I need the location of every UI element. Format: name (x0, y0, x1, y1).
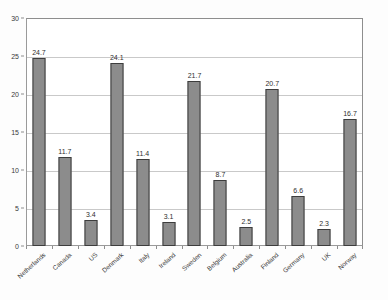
y-tick-label: 0 (15, 243, 19, 250)
x-axis-category-text: Australia (231, 251, 254, 273)
bar-value-label: 11.7 (58, 148, 71, 155)
bar-group: 2.3 (311, 18, 337, 246)
x-axis-category-text: US (87, 251, 98, 262)
bar-group: 21.7 (182, 18, 208, 246)
x-axis-category-text: Sweden (180, 251, 202, 272)
bar (110, 63, 123, 246)
x-axis-category-text: Netherlands (16, 251, 47, 280)
bar-value-label: 24.1 (110, 54, 124, 61)
x-axis-category-text: Germany (281, 251, 306, 274)
x-axis-category-text: Ireland (157, 251, 176, 270)
x-axis-category-text: Italy (137, 251, 151, 264)
bar-group: 2.5 (233, 18, 259, 246)
x-axis-category-text: Denmark (100, 251, 124, 274)
y-tick-label: 20 (11, 91, 19, 98)
bar (188, 81, 201, 246)
bar-value-label: 20.7 (265, 80, 279, 87)
x-axis-category-text: Canada (51, 251, 73, 271)
bar-chart: 051015202530 24.711.73.424.111.43.121.78… (0, 0, 388, 300)
y-tick-mark (21, 170, 24, 171)
bar-value-label: 8.7 (216, 171, 226, 178)
x-axis-category-text: Belgium (206, 251, 228, 272)
bar-group: 16.7 (337, 18, 363, 246)
y-tick-mark (21, 246, 24, 247)
bars-layer: 24.711.73.424.111.43.121.78.72.520.76.62… (26, 18, 363, 246)
y-tick-mark (21, 208, 24, 209)
bar (292, 196, 305, 246)
y-tick-mark (21, 18, 24, 19)
x-axis-category-text: UK (320, 251, 331, 262)
bar-group: 11.4 (130, 18, 156, 246)
bar-value-label: 6.6 (293, 187, 303, 194)
bar-value-label: 3.4 (86, 211, 96, 218)
y-tick-mark (21, 94, 24, 95)
bar-group: 24.1 (104, 18, 130, 246)
bar-value-label: 24.7 (32, 49, 46, 56)
y-tick-label: 10 (11, 167, 19, 174)
bar-group: 8.7 (207, 18, 233, 246)
bar-group: 3.1 (156, 18, 182, 246)
y-tick-mark (21, 56, 24, 57)
y-tick-label: 15 (11, 129, 19, 136)
bar-group: 20.7 (259, 18, 285, 246)
x-axis-category-text: Norway (337, 251, 358, 271)
bar (32, 58, 45, 246)
bar-group: 3.4 (78, 18, 104, 246)
bar (266, 89, 279, 246)
y-tick-label: 25 (11, 53, 19, 60)
y-tick-mark (21, 132, 24, 133)
bar-value-label: 16.7 (343, 110, 357, 117)
y-tick-label: 30 (11, 15, 19, 22)
bar-group: 6.6 (285, 18, 311, 246)
x-axis-category-text: Finland (259, 251, 280, 270)
bar-value-label: 2.3 (319, 220, 329, 227)
y-axis: 051015202530 (0, 18, 24, 246)
bar-group: 24.7 (26, 18, 52, 246)
bar (344, 119, 357, 246)
x-axis-labels: NetherlandsCanadaUSDenmarkItalyIrelandSw… (26, 249, 363, 299)
bar-group: 11.7 (52, 18, 78, 246)
bar (162, 222, 175, 246)
y-tick-label: 5 (15, 205, 19, 212)
bar-value-label: 11.4 (136, 150, 149, 157)
bar-value-label: 3.1 (164, 213, 174, 220)
bar-value-label: 21.7 (188, 72, 202, 79)
bar-value-label: 2.5 (241, 218, 251, 225)
